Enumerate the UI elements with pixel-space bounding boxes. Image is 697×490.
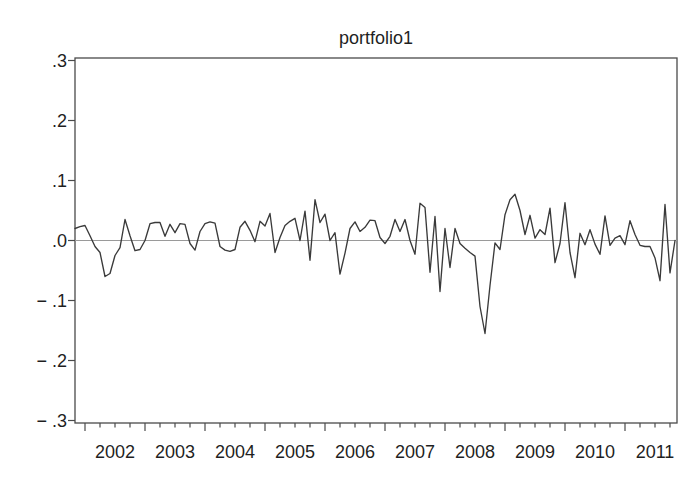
- x-axis-labels: 2002200320042005200620072008200920102011: [95, 442, 674, 462]
- y-axis-labels: .3.2.1.0− .1− .2− .3: [36, 51, 67, 431]
- chart-page: portfolio1 .3.2.1.0− .1− .2− .3 20022003…: [0, 0, 697, 490]
- y-axis-ticks: [68, 61, 75, 421]
- x-year-label: 2011: [636, 442, 675, 462]
- x-year-label: 2004: [215, 442, 255, 462]
- y-tick-label: − .1: [36, 291, 67, 311]
- x-axis-ticks: [85, 423, 670, 431]
- y-tick-label: − .2: [36, 351, 67, 371]
- x-year-label: 2006: [335, 442, 375, 462]
- chart-title: portfolio1: [339, 28, 413, 48]
- y-tick-label: .1: [52, 171, 67, 191]
- series-line: [75, 194, 675, 333]
- y-tick-label: .2: [52, 111, 67, 131]
- x-year-label: 2007: [395, 442, 435, 462]
- x-year-label: 2008: [455, 442, 495, 462]
- x-year-label: 2009: [515, 442, 555, 462]
- x-year-label: 2002: [95, 442, 135, 462]
- portfolio1-chart: portfolio1 .3.2.1.0− .1− .2− .3 20022003…: [0, 0, 697, 490]
- x-year-label: 2003: [155, 442, 195, 462]
- x-year-label: 2010: [575, 442, 615, 462]
- y-tick-label: − .3: [36, 411, 67, 431]
- y-tick-label: .3: [52, 51, 67, 71]
- x-year-label: 2005: [275, 442, 315, 462]
- y-tick-label: .0: [52, 231, 67, 251]
